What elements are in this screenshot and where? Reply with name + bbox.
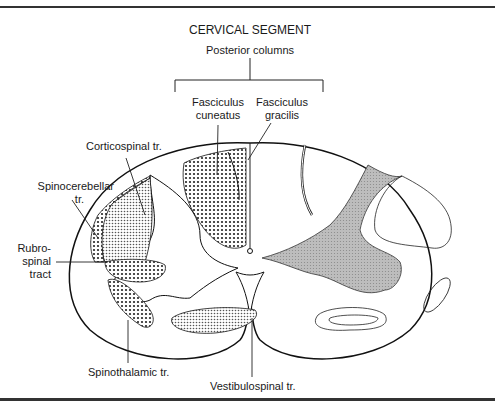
corticospinal-label: Corticospinal tr.	[86, 140, 162, 153]
figure-title: CERVICAL SEGMENT	[150, 24, 350, 37]
posterior-columns-bracket	[175, 58, 323, 92]
vestibulospinal-label: Vestibulospinal tr.	[210, 380, 296, 393]
spinocerebellar-label: Spinocerebellar tr.	[20, 180, 114, 206]
central-canal	[248, 249, 253, 254]
spinothalamic-label: Spinothalamic tr.	[88, 366, 169, 379]
posterior-columns-label: Posterior columns	[170, 44, 330, 57]
fasciculus-gracilis-label: Fasciculus gracilis	[242, 96, 322, 122]
rubrospinal-label: Rubro- spinal tract	[0, 242, 51, 281]
